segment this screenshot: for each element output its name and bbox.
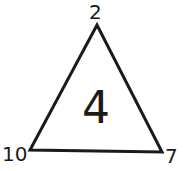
top-vertex-label: 2 (89, 2, 102, 22)
center-value: 4 (82, 86, 110, 130)
bottom-left-vertex-label: 10 (2, 144, 27, 164)
bottom-right-vertex-label: 7 (165, 146, 178, 166)
